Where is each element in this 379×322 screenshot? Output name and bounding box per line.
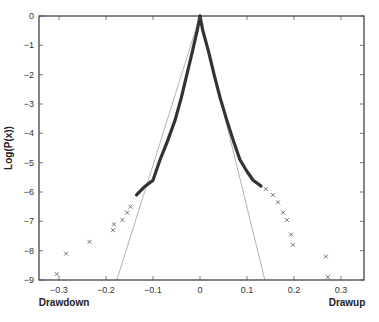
y-tick-label: −5 — [24, 158, 34, 168]
x-tick-label: 0.2 — [288, 285, 301, 295]
data-point-marker — [326, 275, 330, 279]
data-point-marker — [276, 200, 280, 204]
y-axis-label: Log(P(x)) — [3, 126, 14, 170]
x-tick-label: −0.3 — [50, 285, 68, 295]
data-point-marker — [285, 218, 289, 222]
y-tick-label: −6 — [24, 187, 34, 197]
x-tick-label: 0.1 — [241, 285, 254, 295]
data-point-marker — [112, 222, 116, 226]
x-tick-label: 0 — [197, 285, 202, 295]
data-points — [55, 16, 330, 279]
x-tick-label: −0.2 — [97, 285, 115, 295]
data-point-marker — [289, 233, 293, 237]
data-point-marker — [125, 211, 129, 215]
x-axis-ticks: −0.3−0.2−0.100.10.20.3 — [50, 16, 347, 295]
y-tick-label: −9 — [24, 275, 34, 285]
x-axis-label-drawup: Drawup — [329, 297, 366, 308]
data-point-marker — [55, 272, 59, 276]
y-tick-label: −2 — [24, 70, 34, 80]
data-point-marker — [128, 205, 132, 209]
data-point-marker — [88, 240, 92, 244]
data-point-marker — [111, 228, 115, 232]
data-point-marker — [120, 218, 124, 222]
x-tick-label: −0.1 — [144, 285, 162, 295]
data-point-marker — [264, 187, 268, 191]
y-tick-label: −1 — [24, 40, 34, 50]
x-tick-label: 0.3 — [335, 285, 348, 295]
y-tick-label: −4 — [24, 128, 34, 138]
data-point-marker — [324, 255, 328, 259]
y-tick-label: −3 — [24, 99, 34, 109]
y-tick-label: −7 — [24, 216, 34, 226]
x-axis-label-drawdown: Drawdown — [39, 297, 90, 308]
chart: −0.3−0.2−0.100.10.20.3 0−1−2−3−4−5−6−7−8… — [0, 0, 379, 322]
data-point-marker — [291, 243, 295, 247]
y-tick-label: −8 — [24, 246, 34, 256]
data-point-marker — [64, 252, 68, 256]
y-tick-label: 0 — [29, 11, 34, 21]
data-point-marker — [271, 193, 275, 197]
data-point-marker — [281, 211, 285, 215]
